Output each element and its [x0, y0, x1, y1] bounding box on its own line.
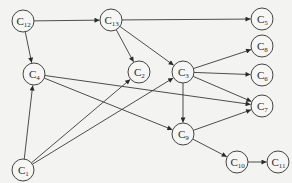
node-c3: C3	[172, 61, 194, 83]
node-c13: C13	[100, 9, 122, 31]
node-c6: C6	[251, 64, 273, 86]
node-c11: C11	[267, 151, 289, 173]
edge-c4-to-c7	[45, 76, 251, 105]
edges-layer	[24, 19, 266, 164]
edge-c13-to-c3	[120, 26, 174, 65]
node-c1: C1	[12, 159, 34, 181]
edge-c3-to-c8	[193, 50, 251, 69]
edge-c4-to-c9	[44, 78, 172, 130]
edge-c12-to-c4	[25, 32, 31, 63]
node-c4: C4	[23, 63, 45, 85]
edge-c3-to-c6	[194, 72, 251, 74]
graph-svg: C12C13C5C8C6C7C4C2C3C9C10C11C1	[0, 0, 292, 183]
node-c2: C2	[128, 61, 150, 83]
edge-c9-to-c10	[193, 139, 227, 157]
node-c9: C9	[172, 123, 194, 145]
node-c5: C5	[251, 8, 273, 30]
edge-c1-to-c2	[31, 79, 130, 162]
edge-c1-to-c4	[24, 85, 32, 159]
edge-c9-to-c7	[193, 110, 251, 130]
edge-c12-to-c13	[34, 20, 100, 21]
nodes-layer: C12C13C5C8C6C7C4C2C3C9C10C11C1	[12, 8, 289, 181]
node-c8: C8	[251, 35, 273, 57]
dependency-graph: C12C13C5C8C6C7C4C2C3C9C10C11C1	[0, 0, 292, 183]
node-c10: C10	[226, 151, 248, 173]
node-c7: C7	[251, 95, 273, 117]
edge-c13-to-c5	[122, 19, 251, 20]
node-c12: C12	[12, 10, 34, 32]
